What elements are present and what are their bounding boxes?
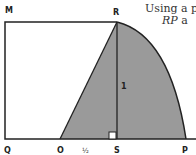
caption-line2: RP a [145, 15, 196, 27]
label-Q: Q [4, 146, 11, 155]
label-O: O [57, 146, 64, 155]
caption-RP: RP [162, 14, 178, 27]
caption-text: Using a p RP a [145, 3, 196, 27]
label-S: S [114, 146, 120, 155]
label-one: 1 [121, 82, 127, 91]
label-P: P [182, 146, 188, 155]
right-angle-marker [109, 132, 116, 139]
shaded-region [60, 22, 186, 139]
label-half: ½ [82, 147, 89, 155]
label-R: R [113, 8, 119, 17]
caption-line2-rest: a [178, 14, 188, 27]
label-M: M [5, 6, 13, 15]
